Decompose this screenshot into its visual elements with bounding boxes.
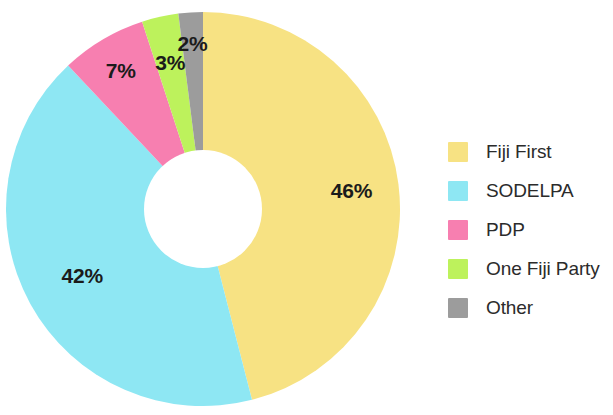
slice-data-label: 42%: [61, 264, 103, 287]
legend-color-swatch: [448, 259, 468, 279]
legend-item[interactable]: PDP: [448, 210, 613, 249]
legend-color-swatch: [448, 142, 468, 162]
donut-chart-figure: 46%42%7%3%2% Fiji FirstSODELPAPDPOne Fij…: [0, 0, 613, 415]
donut-center-hole: [144, 150, 262, 268]
slice-data-label: 7%: [106, 59, 136, 82]
slice-data-label: 46%: [331, 179, 373, 202]
legend-item[interactable]: Other: [448, 288, 613, 327]
legend-item-label: Fiji First: [486, 141, 551, 163]
legend-item[interactable]: SODELPA: [448, 171, 613, 210]
legend-item-label: PDP: [486, 219, 525, 241]
legend-color-swatch: [448, 298, 468, 318]
legend-item-label: One Fiji Party: [486, 258, 600, 280]
slice-data-label: 2%: [178, 32, 208, 55]
chart-legend: Fiji FirstSODELPAPDPOne Fiji PartyOther: [448, 132, 613, 327]
legend-item[interactable]: One Fiji Party: [448, 249, 613, 288]
legend-item-label: SODELPA: [486, 180, 574, 202]
legend-item[interactable]: Fiji First: [448, 132, 613, 171]
legend-color-swatch: [448, 181, 468, 201]
legend-item-label: Other: [486, 297, 533, 319]
legend-color-swatch: [448, 220, 468, 240]
